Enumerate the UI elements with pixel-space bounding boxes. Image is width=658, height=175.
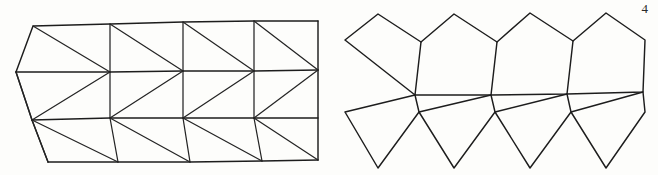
left-net-band-middle: [16, 70, 318, 120]
left-net-figure: [16, 21, 318, 162]
left-net-outline: [16, 21, 318, 162]
right-net-figure: [345, 13, 645, 168]
page-number: 4: [642, 2, 649, 15]
geometric-nets-canvas: [0, 0, 658, 175]
right-net-top-row: [345, 13, 645, 95]
left-net-band-bottom: [32, 118, 318, 162]
figure-page: 4: [0, 0, 658, 175]
right-net-bottom-row: [345, 92, 645, 168]
left-net-band-top: [33, 21, 318, 72]
left-net-horizontal-bands: [16, 70, 318, 120]
